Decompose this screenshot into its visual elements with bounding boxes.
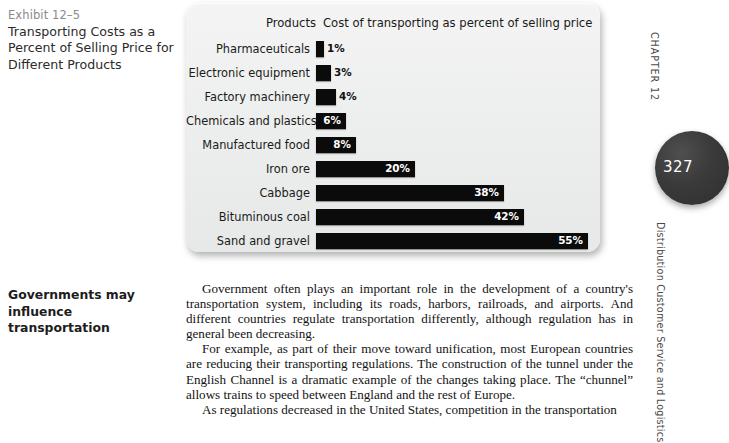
bar-fill: 4%	[316, 89, 336, 105]
running-head-section: Distribution Customer Service and Logist…	[655, 222, 666, 443]
bar-row: Sand and gravel55%	[186, 231, 600, 255]
bar-track: 55%	[316, 233, 588, 249]
bar-value-label: 38%	[474, 186, 499, 198]
exhibit-column-headers: Products Cost of transporting as percent…	[186, 16, 600, 36]
exhibit-panel: Products Cost of transporting as percent…	[186, 3, 600, 252]
bar-category-label: Electronic equipment	[186, 66, 310, 80]
bar-category-label: Chemicals and plastics	[186, 114, 310, 128]
running-head-chapter: CHAPTER 12	[649, 32, 660, 56]
bar-fill: 6%	[316, 113, 346, 129]
exhibit-number: Exhibit 12–5	[8, 8, 176, 23]
bar-category-label: Manufactured food	[186, 138, 310, 152]
bar-row: Chemicals and plastics6%	[186, 111, 600, 135]
bar-fill: 1%	[316, 41, 324, 57]
bar-fill: 8%	[316, 137, 356, 153]
bar-row: Pharmaceuticals1%	[186, 39, 600, 63]
bar-fill: 3%	[316, 65, 331, 81]
bar-fill: 42%	[316, 209, 524, 225]
bar-track: 20%	[316, 161, 415, 177]
bar-value-label: 8%	[333, 138, 351, 150]
bar-fill: 20%	[316, 161, 415, 177]
bar-track: 42%	[316, 209, 524, 225]
bar-value-label: 6%	[323, 114, 341, 126]
bar-category-label: Pharmaceuticals	[186, 42, 310, 56]
exhibit-title: Transporting Costs as a Percent of Selli…	[8, 24, 176, 73]
bar-fill: 38%	[316, 185, 504, 201]
margin-note: Governments may influence transportation	[8, 287, 178, 337]
bar-value-label: 4%	[339, 90, 357, 102]
body-paragraph: For example, as part of their move towar…	[186, 341, 633, 401]
bar-row: Cabbage38%	[186, 183, 600, 207]
bar-row: Bituminous coal42%	[186, 207, 600, 231]
column-header-products: Products	[186, 16, 316, 30]
body-text-column: Government often plays an important role…	[186, 281, 633, 417]
exhibit-caption: Exhibit 12–5 Transporting Costs as a Per…	[8, 8, 176, 73]
bar-chart: Pharmaceuticals1%Electronic equipment3%F…	[186, 39, 600, 255]
bar-category-label: Sand and gravel	[186, 234, 310, 248]
bar-track: 1%	[316, 41, 324, 57]
bar-value-label: 1%	[327, 42, 345, 54]
body-paragraph: As regulations decreased in the United S…	[186, 402, 633, 417]
bar-row: Factory machinery4%	[186, 87, 600, 111]
bar-category-label: Iron ore	[186, 162, 310, 176]
bar-category-label: Bituminous coal	[186, 210, 310, 224]
bar-value-label: 3%	[334, 66, 352, 78]
bar-row: Manufactured food8%	[186, 135, 600, 159]
bar-track: 4%	[316, 89, 336, 105]
bar-value-label: 20%	[385, 162, 410, 174]
bar-track: 38%	[316, 185, 504, 201]
column-header-cost: Cost of transporting as percent of selli…	[323, 16, 592, 30]
page-number-badge: 327	[655, 131, 729, 205]
body-paragraph: Government often plays an important role…	[186, 281, 633, 341]
bar-track: 3%	[316, 65, 331, 81]
bar-row: Electronic equipment3%	[186, 63, 600, 87]
bar-row: Iron ore20%	[186, 159, 600, 183]
page-number: 327	[663, 158, 693, 176]
bar-track: 8%	[316, 137, 356, 153]
bar-value-label: 42%	[494, 210, 519, 222]
bar-category-label: Factory machinery	[186, 90, 310, 104]
bar-value-label: 55%	[558, 234, 583, 246]
bar-category-label: Cabbage	[186, 186, 310, 200]
bar-fill: 55%	[316, 233, 588, 249]
bar-track: 6%	[316, 113, 346, 129]
